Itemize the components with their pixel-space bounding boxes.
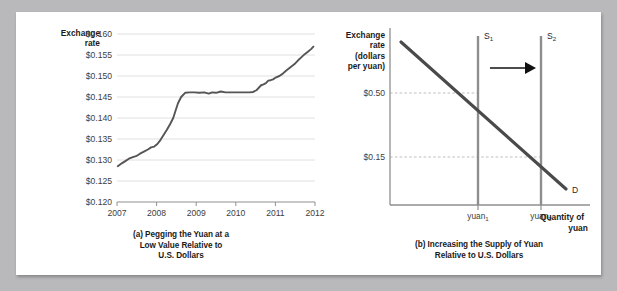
panel-a-svg: Exchange rate $0.120$0.125$0.130$0.135$0… [16, 12, 346, 227]
supply-shift-arrow [490, 62, 536, 74]
panel-a-ytick-label: $0.160 [86, 29, 113, 39]
panel-a-xtick-marks [117, 202, 315, 206]
panel-b-caption-line2: Relative to U.S. Dollars [354, 251, 604, 262]
panel-b-ytick-050: $0.50 [363, 88, 385, 98]
panel-a-xtick-label: 2012 [305, 208, 324, 218]
panel-b-svg: Exchange rate (dollars per yuan) $0.50 $… [334, 12, 601, 237]
panel-a-gridlines [117, 34, 315, 181]
panel-b-xlabel-line1: Quantity of [540, 212, 584, 222]
panel-b-caption-line1: (b) Increasing the Supply of Yuan [354, 240, 604, 251]
supply-curve-1-label: S1 [484, 31, 494, 42]
panel-b-ylabel-line1: Exchange [346, 30, 386, 40]
panel-b-ylabel-line4: per yuan) [348, 61, 386, 71]
panel-a-ylabel-line2: rate [85, 38, 101, 48]
panel-b-xtick-yuan1: yuan1 [467, 211, 489, 222]
panel-b-ylabel-line2: rate [370, 40, 386, 50]
panel-a-xtick-label: 2010 [226, 208, 245, 218]
panel-a-xtick-label: 2007 [107, 208, 126, 218]
panel-a-ytick-label: $0.130 [86, 155, 113, 165]
panel-b-ylabel-line3: (dollars [355, 51, 385, 61]
panel-a-caption-line3: U.S. Dollars [56, 251, 306, 262]
demand-curve-label: D [572, 185, 578, 195]
panel-a-ytick-label: $0.135 [86, 134, 113, 144]
panel-a-caption: (a) Pegging the Yuan at a Low Value Rela… [56, 230, 306, 262]
panel-a-ytick-label: $0.120 [86, 197, 113, 207]
panel-a-ytick-label: $0.155 [86, 50, 113, 60]
panel-b-xlabel-line2: yuan [568, 223, 588, 233]
panel-a-xtick-label: 2009 [187, 208, 206, 218]
panel-a-xtick-label: 2008 [147, 208, 166, 218]
panel-b-ytick-015: $0.15 [363, 152, 385, 162]
panel-a-ytick-labels: $0.120$0.125$0.130$0.135$0.140$0.145$0.1… [86, 29, 113, 207]
panel-b-chart: Exchange rate (dollars per yuan) $0.50 $… [334, 12, 601, 275]
panel-a-series-line [118, 47, 314, 167]
panel-a-ytick-label: $0.145 [86, 92, 113, 102]
panel-b-caption: (b) Increasing the Supply of Yuan Relati… [354, 240, 604, 261]
supply-curve-2-label: S2 [547, 31, 557, 42]
panel-a-caption-line2: Low Value Relative to [56, 241, 306, 252]
panel-a-xtick-labels: 200720082009201020112012 [107, 208, 324, 218]
panel-a-ytick-label: $0.150 [86, 71, 113, 81]
panel-a-caption-line1: (a) Pegging the Yuan at a [56, 230, 306, 241]
panel-a-ytick-label: $0.140 [86, 113, 113, 123]
panel-a-chart: Exchange rate $0.120$0.125$0.130$0.135$0… [16, 12, 346, 275]
panel-a-ytick-label: $0.125 [86, 176, 113, 186]
figure-panel: Exchange rate $0.120$0.125$0.130$0.135$0… [16, 12, 601, 275]
panel-a-xtick-label: 2011 [266, 208, 285, 218]
